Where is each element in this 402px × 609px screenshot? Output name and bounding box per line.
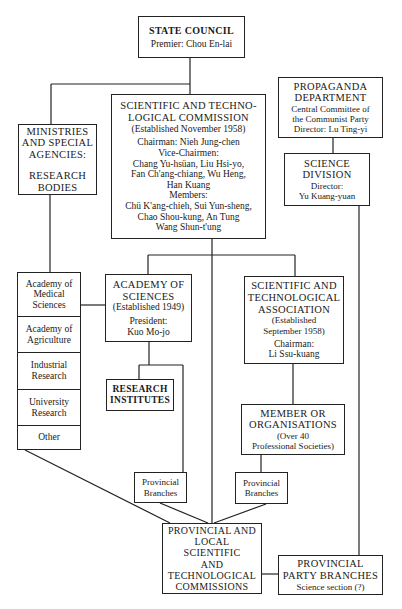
academy-box: ACADEMY OF SCIENCES (Established 1949) P… <box>105 274 192 342</box>
science-division-director: Yu Kuang-yuan <box>299 191 356 201</box>
research-body-medical-line-2: Medical <box>33 289 64 300</box>
propaganda-title-1: PROPAGANDA <box>294 81 368 93</box>
academy-title-1: ACADEMY OF <box>113 279 185 291</box>
academy-president: Kuo Mo-jo <box>127 327 170 338</box>
propaganda-title-2: DEPARTMENT <box>295 92 367 104</box>
institutes-title-1: RESEARCH <box>112 384 167 395</box>
member-orgs-line-1: (Over 40 <box>277 431 309 441</box>
association-title-1: SCIENTIFIC AND <box>251 280 337 292</box>
commission-box: SCIENTIFIC AND TECHNO- LOGICAL COMMISSIO… <box>111 94 266 239</box>
research-body-agriculture-line-1: Academy of <box>26 324 73 335</box>
research-body-university-line-2: Research <box>32 408 67 419</box>
academy-established: (Established 1949) <box>113 302 185 313</box>
research-body-industrial-line-2: Research <box>32 371 67 382</box>
prov-branches-right-line-2: Branches <box>245 488 279 498</box>
provincial-branches-academy-box: Provincial Branches <box>134 472 187 503</box>
commission-members-2: Chao Shou-kung, An Tung <box>138 212 240 223</box>
association-chairman: Li Ssu-kuang <box>269 349 320 360</box>
association-title-3: ASSOCIATION <box>258 304 330 316</box>
ministries-title-4: RESEARCH <box>29 170 86 182</box>
member-orgs-line-2: Professional Societies) <box>252 441 334 451</box>
prov-branches-left-line-1: Provincial <box>142 477 179 487</box>
association-box: SCIENTIFIC AND TECHNOLOGICAL ASSOCIATION… <box>244 276 344 364</box>
ministries-title-3: AGENCIES: <box>29 149 87 161</box>
association-est-1: (Established <box>272 315 317 325</box>
ministries-title-2: AND SPECIAL <box>22 137 93 149</box>
provincial-branches-association-box: Provincial Branches <box>235 472 288 504</box>
research-institutes-box: RESEARCH INSTITUTES <box>106 379 174 411</box>
science-division-title-1: SCIENCE <box>304 158 350 170</box>
commission-title-1: SCIENTIFIC AND TECHNO- <box>120 100 257 112</box>
prov-branches-right-line-1: Provincial <box>243 478 280 488</box>
party-branches-title-1: PROVINCIAL <box>297 558 364 570</box>
provincial-local-line-2: LOCAL <box>195 536 230 547</box>
commission-vice-label: Vice-Chairmen: <box>158 148 219 159</box>
commission-vice-2: Fan Ch'ang-chiang, Wu Heng, <box>131 169 246 180</box>
research-body-industrial-line-1: Industrial <box>31 360 67 371</box>
member-orgs-title-1: MEMBER OR <box>260 408 325 420</box>
research-body-medical: Academy of Medical Sciences <box>17 272 81 317</box>
ministries-title-5: BODIES <box>38 182 78 194</box>
provincial-local-line-3: SCIENTIFIC <box>184 547 241 558</box>
prov-branches-left-line-2: Branches <box>144 488 178 498</box>
institutes-title-2: INSTITUTES <box>110 395 170 406</box>
provincial-local-line-4: AND <box>201 559 224 570</box>
science-division-title-2: DIVISION <box>302 169 351 181</box>
state-council-box: STATE COUNCIL Premier: Chou En-lai <box>138 16 245 58</box>
commission-title-2: LOGICAL COMMISSION <box>128 112 249 124</box>
state-council-premier: Premier: Chou En-lai <box>151 39 232 50</box>
commission-vice-3: Han Kuang <box>167 180 211 191</box>
propaganda-line-1: Central Committee of <box>291 104 369 114</box>
research-body-university-line-1: University <box>29 397 69 408</box>
commission-members-3: Wang Shun-t'ung <box>156 222 222 233</box>
commission-vice-1: Chang Yu-hsüan, Liu Hsi-yo, <box>133 159 244 170</box>
research-body-agriculture-line-2: Agriculture <box>27 335 71 346</box>
commission-members-1: Chü K'ang-chieh, Sui Yun-sheng, <box>125 201 252 212</box>
research-body-other-line-1: Other <box>38 432 60 443</box>
research-body-medical-line-3: Sciences <box>32 300 65 311</box>
propaganda-line-2: the Communist Party <box>292 114 369 124</box>
academy-president-label: President: <box>130 316 168 327</box>
association-title-2: TECHNOLOGICAL <box>248 292 341 304</box>
commission-chairman: Chairman: Nieh Jung-chen <box>137 137 239 148</box>
research-body-agriculture: Academy of Agriculture <box>17 317 81 353</box>
commission-established: (Established November 1958) <box>132 124 246 135</box>
research-bodies-stack: Academy of Medical Sciences Academy of A… <box>17 272 81 450</box>
association-chairman-label: Chairman: <box>274 339 314 350</box>
science-division-director-label: Director: <box>311 181 343 191</box>
state-council-title: STATE COUNCIL <box>149 25 234 36</box>
propaganda-director: Director: Lu Ting-yi <box>294 124 368 134</box>
provincial-party-branches-box: PROVINCIAL PARTY BRANCHES Science sectio… <box>278 555 383 595</box>
provincial-local-line-1: PROVINCIAL AND <box>168 525 256 536</box>
provincial-local-line-6: COMMISSIONS <box>176 581 249 592</box>
association-est-2: September 1958) <box>263 326 325 336</box>
research-body-medical-line-1: Academy of <box>26 279 73 290</box>
research-body-other: Other <box>17 426 81 450</box>
provincial-local-line-5: TECHNOLOGICAL <box>168 570 256 581</box>
member-organisations-box: MEMBER OR ORGANISATIONS (Over 40 Profess… <box>241 404 345 455</box>
ministries-title-1: MINISTRIES <box>27 126 89 138</box>
commission-members-label: Members: <box>169 190 208 201</box>
academy-title-2: SCIENCES <box>123 291 175 303</box>
party-branches-title-2: PARTY BRANCHES <box>283 570 378 582</box>
science-division-box: SCIENCE DIVISION Director: Yu Kuang-yuan <box>284 153 370 206</box>
ministries-box: MINISTRIES AND SPECIAL AGENCIES: RESEARC… <box>18 124 97 195</box>
party-branches-line-1: Science section (?) <box>297 582 365 592</box>
member-orgs-title-2: ORGANISATIONS <box>249 419 337 431</box>
research-body-industrial: Industrial Research <box>17 353 81 390</box>
research-body-university: University Research <box>17 390 81 426</box>
propaganda-box: PROPAGANDA DEPARTMENT Central Committee … <box>278 77 383 138</box>
provincial-local-commissions-box: PROVINCIAL AND LOCAL SCIENTIFIC AND TECH… <box>162 523 262 594</box>
